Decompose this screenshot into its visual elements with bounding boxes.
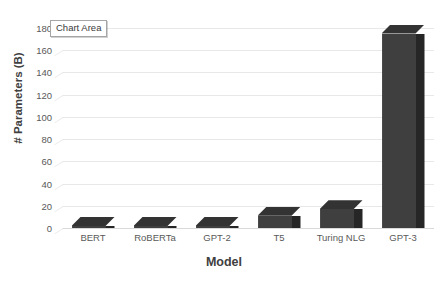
bar-front-face (382, 34, 417, 228)
bar-front-face (196, 226, 231, 228)
bar-top-face (258, 207, 301, 216)
chart-root: # Parameters (B) 02040608010012014016018… (0, 0, 448, 281)
bar-side-face (292, 216, 301, 228)
y-axis-tick-label: 160 (36, 45, 52, 56)
y-axis-tick-label: 40 (41, 178, 52, 189)
bar-front-face (258, 216, 293, 228)
y-axis-tick-labels: 020406080100120140160180 (0, 28, 56, 228)
y-axis-tick-label: 120 (36, 89, 52, 100)
x-axis-tick-label: GPT-3 (389, 232, 416, 243)
bar-top-face (382, 25, 425, 34)
bar-side-face (230, 226, 239, 228)
bar-front-face (320, 209, 355, 228)
x-axis-tick-label: RoBERTa (134, 232, 176, 243)
x-axis-tick-label: BERT (80, 232, 105, 243)
bar-side-face (354, 209, 363, 228)
chart-area-tooltip: Chart Area (50, 20, 107, 37)
bar[interactable] (320, 200, 363, 228)
bar-side-face (106, 226, 115, 228)
bar[interactable] (258, 207, 301, 228)
bar-top-face (196, 217, 239, 226)
x-axis-tick-label: GPT-2 (203, 232, 230, 243)
bar-side-face (168, 226, 177, 228)
x-axis-tick-label: T5 (273, 232, 284, 243)
y-axis-tick-label: 140 (36, 67, 52, 78)
bar-top-face (134, 217, 177, 226)
bar-front-face (134, 226, 169, 228)
y-axis-tick-label: 60 (41, 156, 52, 167)
bar-top-face (320, 200, 363, 209)
bar[interactable] (382, 25, 425, 228)
x-axis-tick-label: Turing NLG (317, 232, 366, 243)
bar-side-face (416, 34, 425, 228)
y-axis-tick-label: 100 (36, 111, 52, 122)
y-axis-tick-label: 0 (47, 223, 52, 234)
bar-series (62, 28, 434, 228)
y-axis-tick-label: 20 (41, 200, 52, 211)
bar-front-face (72, 226, 107, 228)
bar-top-face (72, 217, 115, 226)
bar[interactable] (196, 217, 239, 228)
bar[interactable] (72, 217, 115, 228)
bar[interactable] (134, 217, 177, 228)
x-axis-tick-labels: BERTRoBERTaGPT-2T5Turing NLGGPT-3 (62, 232, 434, 248)
y-axis-tick-label: 80 (41, 134, 52, 145)
gridline (62, 228, 434, 229)
x-axis-title: Model (0, 255, 448, 269)
